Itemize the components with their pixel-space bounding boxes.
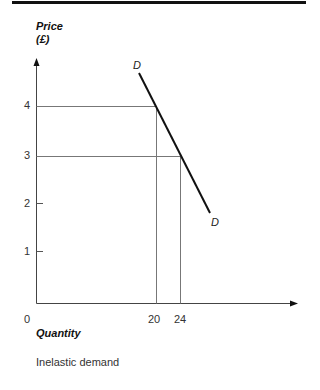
demand-label-end: D — [211, 216, 219, 228]
demand-label-start: D — [133, 59, 141, 71]
y-tick-label-2: 2 — [24, 197, 30, 209]
x-axis-label: Quantity — [36, 327, 81, 339]
x-tick-label-24: 24 — [174, 313, 186, 325]
y-tick-label-3: 3 — [24, 149, 30, 161]
y-axis-arrow-icon — [34, 58, 40, 66]
chart-caption: Inelastic demand — [36, 356, 119, 368]
y-tick-label-1: 1 — [24, 245, 30, 257]
y-tick-label-4: 4 — [24, 99, 30, 111]
x-axis-arrow-icon — [290, 301, 298, 307]
demand-curve — [139, 73, 210, 213]
x-tick-label-0: 0 — [24, 313, 30, 325]
x-tick-label-20: 20 — [148, 313, 160, 325]
